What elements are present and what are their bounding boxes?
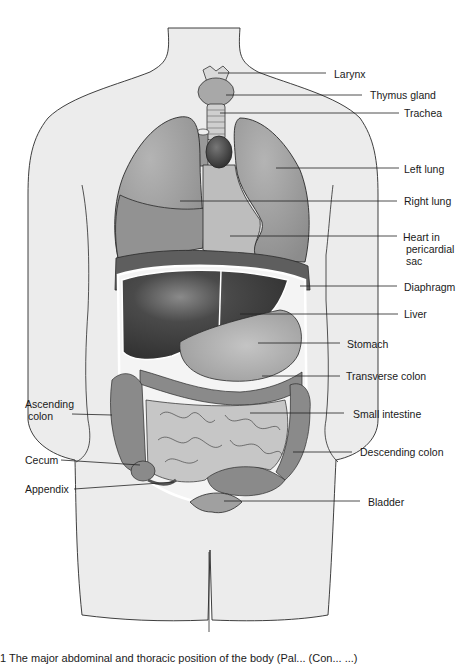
heart <box>206 136 232 168</box>
label-stomach: Stomach <box>347 338 388 350</box>
label-trachea: Trachea <box>404 107 442 119</box>
label-small-intestine: Small intestine <box>353 408 421 420</box>
label-transverse-colon: Transverse colon <box>346 370 426 382</box>
label-diaphragm: Diaphragm <box>404 281 455 293</box>
label-liver: Liver <box>404 308 427 320</box>
label-cecum: Cecum <box>25 454 58 466</box>
label-right-lung: Right lung <box>404 195 451 207</box>
label-heart: Heart in pericardial sac <box>403 231 454 267</box>
label-appendix: Appendix <box>25 483 69 495</box>
label-descending-colon: Descending colon <box>360 446 443 458</box>
thyroid <box>198 78 234 106</box>
label-larynx: Larynx <box>334 68 366 80</box>
trachea <box>207 104 225 140</box>
label-thymus-gland: Thymus gland <box>370 89 436 101</box>
cecum <box>131 461 155 481</box>
label-bladder: Bladder <box>368 496 404 508</box>
label-ascending-colon: Ascending colon <box>25 398 74 422</box>
label-left-lung: Left lung <box>404 163 444 175</box>
figure-caption: 1 The major abdominal and thoracic posit… <box>0 652 470 664</box>
